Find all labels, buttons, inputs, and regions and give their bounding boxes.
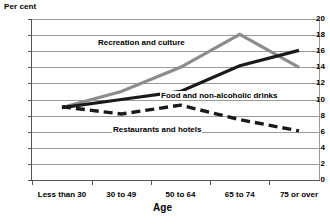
x-axis-title: Age [0, 202, 325, 213]
series-annotation-restaurants-and-hotels: Restaurants and hotels [112, 125, 202, 134]
series-annotation-recreation-and-culture: Recreation and culture [97, 38, 186, 47]
series-annotation-food-and-non-alcoholic-drinks: Food and non-alcoholic drinks [160, 91, 278, 100]
